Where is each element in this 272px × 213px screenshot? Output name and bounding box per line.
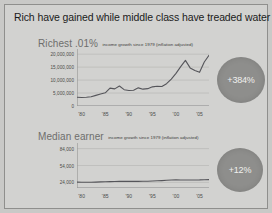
y-tick-label: 10,000,000 <box>51 78 75 83</box>
y-tick-label: 20,000,000 <box>51 52 75 57</box>
chart-richest <box>77 49 209 106</box>
chart-median-y-axis: 24,00054,00084,000 <box>29 143 74 188</box>
slide: Rich have gained while middle class have… <box>4 4 268 209</box>
y-tick-label-zero: 0 <box>71 104 74 109</box>
y-tick-label: 15,000,000 <box>51 65 75 70</box>
badge-richest: +384% <box>217 57 265 103</box>
chart-richest-y-axis: 5,000,00010,000,00015,000,00020,000,0000 <box>29 49 74 106</box>
chart-median <box>77 143 209 188</box>
panel-median-head: Median earner income growth since 1979 (… <box>38 126 199 144</box>
y-tick-label: 24,000 <box>60 180 74 185</box>
badge-median: +12% <box>217 148 263 192</box>
x-tick-label: '80 <box>78 111 85 117</box>
x-tick-label: '05 <box>196 111 203 117</box>
x-tick-label: '85 <box>102 193 109 199</box>
x-tick-label: '80 <box>78 193 85 199</box>
panel-median-subtitle: income growth since 1979 (inflation adju… <box>108 135 198 140</box>
chart-richest-x-axis: '80'85'90'95'00'05 <box>77 108 209 118</box>
y-tick-label: 54,000 <box>60 163 74 168</box>
page-title: Rich have gained while middle class have… <box>14 11 270 23</box>
y-tick-label: 5,000,000 <box>53 91 74 96</box>
x-tick-label: '05 <box>196 193 203 199</box>
data-series-line <box>77 180 209 183</box>
x-tick-label: '90 <box>125 111 132 117</box>
chart-richest-plot <box>77 49 209 106</box>
panel-richest-subtitle: income growth since 1979 (inflation adju… <box>103 42 193 47</box>
x-tick-label: '95 <box>149 193 156 199</box>
x-tick-label: '00 <box>173 193 180 199</box>
x-tick-label: '85 <box>102 111 109 117</box>
data-series-line <box>77 55 209 97</box>
panel-median-label: Median earner <box>38 131 104 142</box>
x-tick-label: '95 <box>149 111 156 117</box>
y-tick-label: 84,000 <box>60 146 74 151</box>
chart-median-plot <box>77 143 209 188</box>
panel-richest-label: Richest .01% <box>38 38 98 49</box>
x-tick-label: '90 <box>125 193 132 199</box>
chart-median-x-axis: '80'85'90'95'00'05 <box>77 190 209 200</box>
x-tick-label: '00 <box>173 111 180 117</box>
